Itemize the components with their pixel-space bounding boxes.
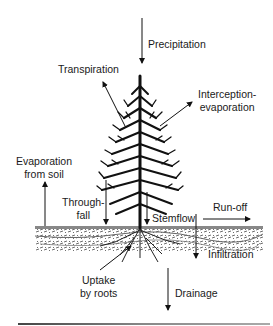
- uptake-roots-label: Uptake by roots: [80, 274, 117, 300]
- evap-soil-line1: Evaporation: [16, 155, 72, 168]
- throughfall-line1: Through-: [62, 196, 105, 209]
- drainage-label: Drainage: [175, 287, 218, 300]
- interception-label-line1: Interception-: [198, 88, 256, 101]
- stemflow-label: Stemflow: [152, 212, 195, 225]
- runoff-label: Run-off: [213, 201, 247, 214]
- precipitation-label: Precipitation: [148, 38, 206, 51]
- interception-arrow: [160, 102, 192, 126]
- water-cycle-diagram: Precipitation Transpiration Interception…: [0, 0, 273, 326]
- interception-label-line2: evaporation: [198, 101, 256, 114]
- uptake-line2: by roots: [80, 287, 117, 300]
- bottom-rule: [18, 323, 270, 325]
- tree: [97, 76, 183, 228]
- process-arrows: [45, 18, 250, 310]
- throughfall-line2: fall: [62, 209, 105, 222]
- transpiration-arrow: [103, 82, 126, 128]
- evaporation-soil-label: Evaporation from soil: [16, 155, 72, 181]
- infiltration-label: Infiltration: [208, 248, 254, 261]
- evap-soil-line2: from soil: [16, 168, 72, 181]
- uptake-line1: Uptake: [80, 274, 117, 287]
- throughfall-label: Through- fall: [62, 196, 105, 222]
- interception-evaporation-label: Interception- evaporation: [198, 88, 256, 114]
- transpiration-label: Transpiration: [58, 63, 119, 76]
